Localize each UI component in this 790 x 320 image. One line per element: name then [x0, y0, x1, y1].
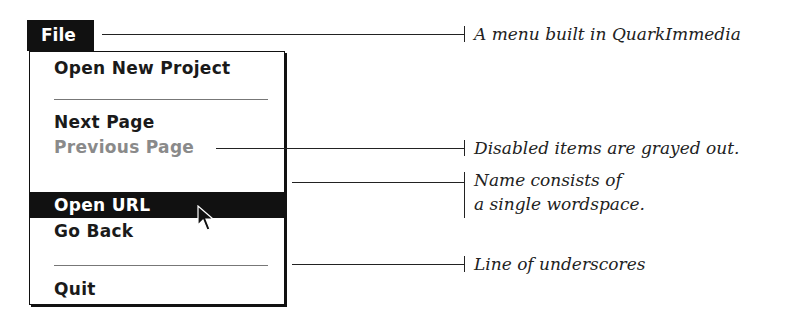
- callout-line-menu: [102, 34, 464, 35]
- menu-separator: [54, 99, 268, 100]
- annotation-underscores: Line of underscores: [474, 252, 645, 276]
- callout-tick: [464, 256, 465, 272]
- menu-item-previous-page: Previous Page: [30, 134, 284, 160]
- callout-line-disabled: [216, 148, 464, 149]
- menu-item-quit[interactable]: Quit: [30, 276, 284, 302]
- annotation-menu-built: A menu built in QuarkImmedia: [474, 22, 741, 46]
- callout-tick: [464, 26, 465, 42]
- menu-item-open-url[interactable]: Open URL: [30, 192, 284, 218]
- callout-tick: [464, 172, 465, 218]
- menu-item-open-new-project[interactable]: Open New Project: [30, 55, 284, 81]
- annotation-disabled: Disabled items are grayed out.: [474, 136, 739, 160]
- menu-item-wordspace-separator: [30, 165, 284, 191]
- menu-item-next-page[interactable]: Next Page: [30, 109, 284, 135]
- callout-line-wordspace: [292, 182, 464, 183]
- menu-item-go-back[interactable]: Go Back: [30, 218, 284, 244]
- callout-line-underscores: [292, 264, 464, 265]
- callout-tick: [464, 140, 465, 156]
- annotation-wordspace-1: Name consists of: [474, 168, 622, 192]
- file-menu-title[interactable]: File: [27, 20, 94, 51]
- arrow-cursor-icon: [197, 205, 217, 233]
- menu-separator-underscores: [54, 265, 268, 266]
- file-menu-dropdown: Open New Project Next Page Previous Page…: [29, 51, 285, 305]
- annotation-wordspace-2: a single wordspace.: [474, 192, 645, 216]
